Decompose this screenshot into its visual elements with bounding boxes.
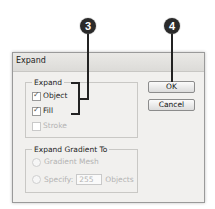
gradient-mesh-radio[interactable]: Gradient Mesh [32, 157, 99, 167]
expand-group: Expand Object Fill Stroke [25, 82, 138, 138]
callout-3-bracket [78, 82, 80, 115]
expand-dialog: Expand Expand Object Fill Stroke Expand … [12, 52, 205, 203]
gradient-mesh-label: Gradient Mesh [44, 157, 99, 167]
callout-3-bracket-top [71, 82, 80, 84]
checkbox-icon [32, 107, 41, 116]
callout-4: 4 [164, 18, 180, 34]
expand-gradient-group: Expand Gradient To Gradient Mesh Specify… [25, 149, 138, 193]
stroke-checkbox[interactable]: Stroke [32, 121, 67, 131]
checkbox-icon [32, 92, 41, 101]
title-bar[interactable]: Expand [13, 53, 204, 72]
fill-label: Fill [43, 106, 53, 116]
expand-gradient-label: Expand Gradient To [32, 145, 109, 154]
callout-3-bracket-bottom [71, 113, 80, 115]
callout-4-leader [171, 34, 173, 82]
cancel-button[interactable]: Cancel [148, 99, 195, 111]
callout-3-leader [87, 34, 89, 99]
dialog-title: Expand [16, 56, 46, 65]
fill-checkbox[interactable]: Fill [32, 106, 53, 116]
expand-group-label: Expand [32, 78, 64, 87]
radio-icon [32, 175, 41, 184]
object-label: Object [43, 91, 67, 101]
checkbox-icon [32, 122, 41, 131]
objects-label: Objects [105, 175, 133, 185]
callout-3: 3 [80, 18, 96, 34]
specify-objects-input[interactable]: 255 [76, 174, 102, 185]
radio-icon [32, 158, 41, 167]
object-checkbox[interactable]: Object [32, 91, 67, 101]
stroke-label: Stroke [43, 121, 67, 131]
specify-radio[interactable]: Specify: 255 Objects [32, 174, 134, 185]
specify-label: Specify: [44, 175, 73, 185]
ok-button[interactable]: OK [148, 81, 195, 93]
